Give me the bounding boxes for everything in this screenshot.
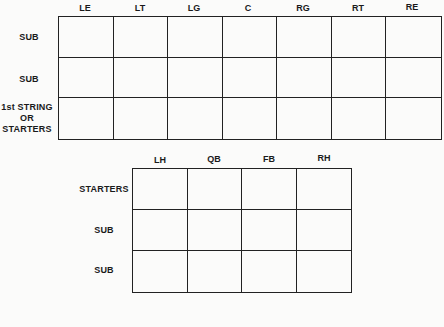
grid-cell[interactable]: [297, 169, 352, 210]
grid-cell[interactable]: [133, 251, 188, 292]
column-label-fb: FB: [242, 154, 296, 164]
backfield-grid: [132, 168, 352, 293]
grid-cell[interactable]: [223, 98, 278, 139]
row-label-sub-2: SUB: [0, 74, 58, 84]
column-label-rh: RH: [297, 153, 351, 163]
grid-cell[interactable]: [133, 210, 188, 251]
column-label-rt: RT: [331, 3, 385, 13]
column-label-le: LE: [58, 3, 112, 13]
column-label-qb: QB: [187, 154, 241, 164]
grid-cell[interactable]: [114, 98, 169, 139]
grid-cell[interactable]: [168, 17, 223, 58]
grid-cell[interactable]: [332, 98, 387, 139]
grid-cell[interactable]: [277, 98, 332, 139]
row-label-sub-2: SUB: [76, 265, 132, 275]
grid-cell[interactable]: [242, 210, 297, 251]
grid-cell[interactable]: [114, 58, 169, 99]
grid-cell[interactable]: [188, 169, 243, 210]
grid-cell[interactable]: [277, 17, 332, 58]
grid-cell[interactable]: [386, 98, 441, 139]
grid-cell[interactable]: [386, 17, 441, 58]
grid-cell[interactable]: [386, 58, 441, 99]
grid-cell[interactable]: [332, 17, 387, 58]
grid-cell[interactable]: [133, 169, 188, 210]
grid-cell[interactable]: [242, 169, 297, 210]
row-label-starters: 1st STRING OR STARTERS: [0, 102, 54, 135]
grid-cell[interactable]: [223, 17, 278, 58]
column-label-c: C: [221, 3, 275, 13]
grid-cell[interactable]: [188, 210, 243, 251]
column-label-re: RE: [385, 2, 439, 12]
column-label-lg: LG: [167, 3, 221, 13]
line-grid: [58, 16, 442, 140]
grid-cell[interactable]: [277, 58, 332, 99]
row-label-line: OR: [0, 113, 54, 124]
row-label-line: 1st STRING: [0, 102, 54, 113]
grid-cell[interactable]: [59, 17, 114, 58]
grid-cell[interactable]: [297, 251, 352, 292]
column-label-lh: LH: [133, 155, 187, 165]
row-label-sub-1: SUB: [76, 225, 132, 235]
grid-cell[interactable]: [223, 58, 278, 99]
grid-cell[interactable]: [59, 58, 114, 99]
row-label-starters: STARTERS: [76, 184, 132, 194]
grid-cell[interactable]: [168, 98, 223, 139]
grid-cell[interactable]: [114, 17, 169, 58]
row-label-line: STARTERS: [0, 124, 54, 135]
grid-cell[interactable]: [59, 98, 114, 139]
row-label-sub-1: SUB: [0, 32, 58, 42]
grid-cell[interactable]: [242, 251, 297, 292]
grid-cell[interactable]: [188, 251, 243, 292]
column-label-lt: LT: [113, 3, 167, 13]
grid-cell[interactable]: [297, 210, 352, 251]
grid-cell[interactable]: [168, 58, 223, 99]
grid-cell[interactable]: [332, 58, 387, 99]
column-label-rg: RG: [276, 3, 330, 13]
